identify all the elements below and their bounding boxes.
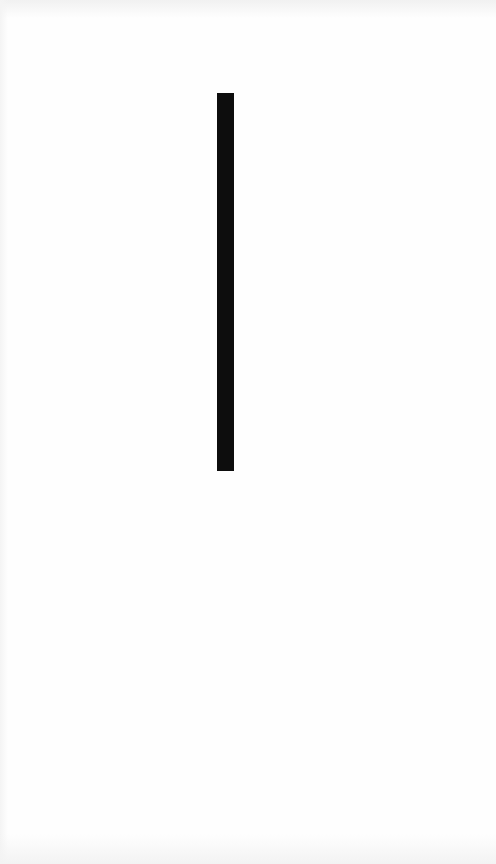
left-edge-shade [0,0,8,864]
blank-screen [0,0,496,864]
bottom-edge-shade [0,834,496,864]
top-edge-shade [0,0,496,18]
text-cursor-icon [217,93,234,471]
